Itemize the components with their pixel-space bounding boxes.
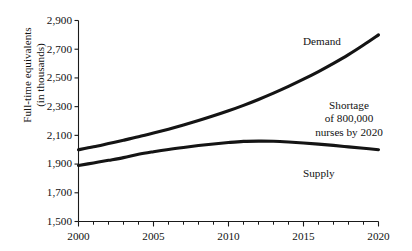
x-tick-label-2000: 2000	[57, 231, 101, 242]
shortage-annotation: Shortage of 800,000 nurses by 2020	[290, 99, 408, 139]
x-tick-label-2005: 2005	[132, 231, 176, 242]
y-tick-label-2100: 2,100	[22, 130, 72, 141]
shortage-annotation-line1: Shortage	[290, 99, 408, 112]
x-tick-label-2015: 2015	[282, 231, 326, 242]
y-tick-label-2900: 2,900	[22, 15, 72, 26]
y-tick-label-1500: 1,500	[22, 216, 72, 227]
nursing-shortage-chart: Full-time equivalents (in thousands) 1,5…	[0, 0, 412, 251]
x-tick-label-2010: 2010	[207, 231, 251, 242]
supply-series-label: Supply	[303, 168, 335, 179]
y-tick-label-2300: 2,300	[22, 101, 72, 112]
y-tick-label-2700: 2,700	[22, 44, 72, 55]
supply-line	[79, 141, 379, 165]
y-tick-label-1700: 1,700	[22, 187, 72, 198]
shortage-annotation-line2: of 800,000	[290, 112, 408, 125]
y-axis-ticks	[75, 21, 79, 222]
demand-series-label: Demand	[303, 36, 341, 47]
x-tick-label-2020: 2020	[357, 231, 401, 242]
y-tick-label-2500: 2,500	[22, 72, 72, 83]
shortage-annotation-line3: nurses by 2020	[290, 126, 408, 139]
y-tick-label-1900: 1,900	[22, 158, 72, 169]
